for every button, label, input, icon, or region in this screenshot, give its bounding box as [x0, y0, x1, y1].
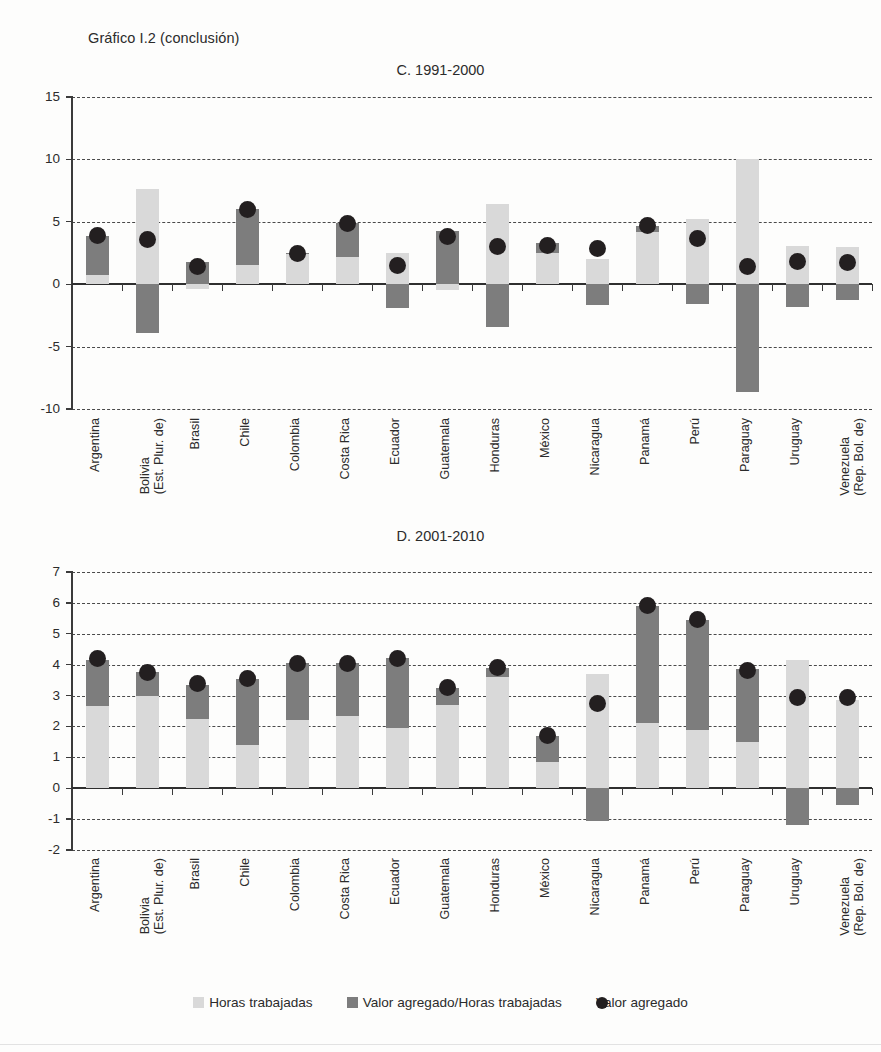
legend-swatch-black-circle-icon: [596, 997, 608, 1009]
x-axis-tick-mark: [422, 284, 423, 291]
x-axis-tick-mark: [172, 284, 173, 291]
x-axis-category-label: Nicaragua: [588, 858, 602, 915]
bar-segment-horas-trabajadas: [636, 723, 659, 788]
x-axis-tick-mark: [472, 284, 473, 291]
legend-label-valor-agregado: Valor agregado: [596, 995, 688, 1010]
x-axis-tick-mark: [522, 788, 523, 795]
y-axis-tick-label: 6: [20, 596, 60, 610]
data-point-valor-agregado: [339, 215, 356, 232]
x-axis-category-label: Honduras: [488, 418, 502, 473]
y-axis-tick-label: -2: [20, 843, 60, 857]
bar-segment-horas-trabajadas: [836, 700, 859, 788]
x-axis-tick-mark: [622, 788, 623, 795]
bar-segment-horas-trabajadas: [586, 674, 609, 788]
legend-swatch-light-square-icon: [193, 997, 204, 1008]
y-axis-tick-label: 5: [20, 215, 60, 229]
bar-segment-valor-agregado-horas: [386, 658, 409, 728]
data-point-valor-agregado: [239, 670, 256, 687]
x-axis-category-label: Bolivia (Est. Plur. de): [138, 858, 166, 934]
x-axis-category-label: Costa Rica: [338, 858, 352, 920]
x-axis-tick-mark: [872, 788, 873, 795]
bar-segment-horas-trabajadas: [636, 232, 659, 284]
x-axis-tick-mark: [622, 284, 623, 291]
data-point-valor-agregado: [589, 695, 606, 712]
bar-segment-valor-agregado-horas: [786, 788, 809, 825]
data-point-valor-agregado: [189, 675, 206, 692]
data-point-valor-agregado: [639, 597, 656, 614]
x-axis-category-label: Costa Rica: [338, 418, 352, 480]
bar-segment-horas-trabajadas: [186, 719, 209, 789]
bar-segment-valor-agregado-horas: [736, 669, 759, 742]
x-axis-category-label: Chile: [238, 858, 252, 887]
x-axis-category-label: Brasil: [188, 418, 202, 450]
y-axis-tick-label: 10: [20, 152, 60, 166]
gridline: [72, 819, 872, 820]
x-axis-tick-mark: [572, 284, 573, 291]
x-axis-category-label: Argentina: [88, 418, 102, 472]
bar-segment-horas-trabajadas: [86, 706, 109, 788]
data-point-valor-agregado: [439, 679, 456, 696]
data-point-valor-agregado: [839, 689, 856, 706]
bar-segment-valor-agregado-horas: [836, 788, 859, 805]
x-axis-tick-mark: [672, 788, 673, 795]
data-point-valor-agregado: [139, 664, 156, 681]
x-axis-category-label: Ecuador: [388, 418, 402, 465]
x-axis-tick-mark: [272, 284, 273, 291]
data-point-valor-agregado: [89, 227, 106, 244]
x-axis-category-label: Guatemala: [438, 418, 452, 480]
bar-segment-valor-agregado-horas: [686, 620, 709, 730]
x-axis-tick-mark: [572, 788, 573, 795]
data-point-valor-agregado: [839, 254, 856, 271]
legend-item-valor-agregado: Valor agregado: [596, 995, 688, 1010]
bar-segment-horas-trabajadas: [536, 762, 559, 788]
bar-segment-horas-trabajadas: [336, 716, 359, 789]
y-axis-tick-label: 0: [20, 277, 60, 291]
x-axis-tick-mark: [322, 788, 323, 795]
x-axis-tick-mark: [222, 788, 223, 795]
bar-segment-horas-trabajadas: [786, 660, 809, 788]
x-axis-category-label: Panamá: [638, 418, 652, 465]
y-axis-line: [71, 572, 73, 850]
bar-segment-valor-agregado-horas: [786, 284, 809, 306]
x-axis-category-label: Uruguay: [788, 858, 802, 906]
data-point-valor-agregado: [189, 258, 206, 275]
x-axis-category-label: México: [538, 418, 552, 458]
gridline: [72, 603, 872, 604]
gridline: [72, 850, 872, 851]
data-point-valor-agregado: [289, 655, 306, 672]
data-point-valor-agregado: [789, 253, 806, 270]
bar-segment-horas-trabajadas: [436, 284, 459, 290]
chart-title-d: D. 2001-2010: [0, 528, 881, 544]
data-point-valor-agregado: [589, 240, 606, 257]
x-axis-tick-mark: [722, 284, 723, 291]
bar-segment-horas-trabajadas: [386, 728, 409, 788]
data-point-valor-agregado: [789, 689, 806, 706]
footer-rule: [0, 1044, 881, 1045]
x-axis-tick-mark: [522, 284, 523, 291]
x-axis-tick-mark: [122, 788, 123, 795]
data-point-valor-agregado: [439, 228, 456, 245]
data-point-valor-agregado: [539, 237, 556, 254]
x-axis-tick-mark: [722, 788, 723, 795]
data-point-valor-agregado: [139, 231, 156, 248]
data-point-valor-agregado: [539, 727, 556, 744]
gridline: [72, 409, 872, 410]
x-axis-tick-mark: [822, 284, 823, 291]
bar-segment-horas-trabajadas: [86, 275, 109, 284]
data-point-valor-agregado: [289, 245, 306, 262]
bar-segment-valor-agregado-horas: [686, 284, 709, 304]
data-point-valor-agregado: [739, 662, 756, 679]
legend-item-valor-agregado-horas: Valor agregado/Horas trabajadas: [347, 995, 562, 1010]
y-axis-tick-label: -10: [20, 402, 60, 416]
x-axis-category-label: Nicaragua: [588, 418, 602, 475]
bar-segment-horas-trabajadas: [236, 745, 259, 788]
y-axis-tick-label: 7: [20, 565, 60, 579]
x-axis-category-label: Chile: [238, 418, 252, 447]
bar-segment-valor-agregado-horas: [486, 284, 509, 326]
x-axis-category-label: México: [538, 858, 552, 898]
bar-segment-horas-trabajadas: [236, 265, 259, 284]
x-axis-tick-mark: [272, 788, 273, 795]
bar-segment-valor-agregado-horas: [636, 606, 659, 723]
bar-segment-valor-agregado-horas: [586, 284, 609, 305]
bar-segment-valor-agregado-horas: [736, 284, 759, 391]
